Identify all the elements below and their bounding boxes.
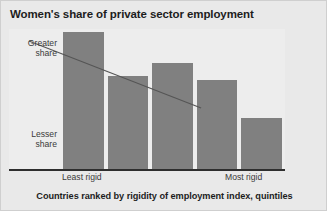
x-axis-label-least-rigid: Least rigid [62,172,102,182]
chart-caption: Countries ranked by rigidity of employme… [1,191,327,201]
bar-quintile-4 [197,80,237,169]
bar-quintile-3 [152,63,193,169]
y-axis-label-lesser-line2: share [9,140,57,150]
bar-quintile-1 [63,32,104,169]
axis-baseline [9,169,285,171]
bar-quintile-5 [241,118,282,169]
y-axis-label-greater: Greater share [9,39,57,58]
chart-figure: Women's share of private sector employme… [0,0,327,211]
x-axis-label-most-rigid: Most rigid [225,172,262,182]
y-axis-label-greater-line2: share [9,49,57,59]
y-axis-label-lesser: Lesser share [9,130,57,149]
bar-quintile-2 [108,76,148,169]
chart-title: Women's share of private sector employme… [10,8,310,20]
